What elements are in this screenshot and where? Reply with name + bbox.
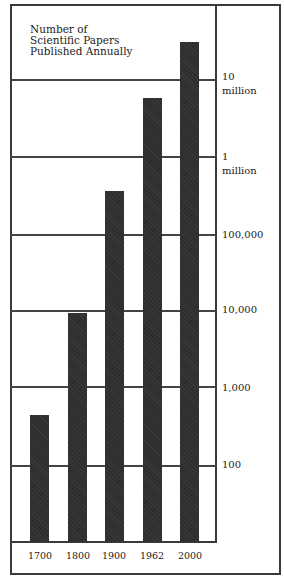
xtick-1700: 1700 [25,550,55,561]
bar-1800 [68,313,87,542]
xtick-2000: 2000 [175,550,205,561]
ytick-10-million-line2: million [222,84,257,98]
ytick-100000: 100,000 [222,228,263,242]
ytick-10-million: 10 million [222,70,257,98]
chart-title: Number of Scientific Papers Published An… [30,24,132,57]
bar-1962 [143,98,162,542]
xtick-1800: 1800 [63,550,93,561]
title-line-3: Published Annually [30,46,132,57]
ytick-100: 100 [222,458,241,472]
ytick-10000: 10,000 [222,303,257,317]
xtick-1900: 1900 [99,550,129,561]
ytick-1-million-line1: 1 [222,150,257,164]
xtick-1962: 1962 [137,550,167,561]
bar-2000 [180,42,199,542]
ytick-10-million-line1: 10 [222,70,257,84]
ytick-1-million: 1 million [222,150,257,178]
ytick-1000: 1,000 [222,381,251,395]
bar-1700 [30,415,49,542]
ytick-1-million-line2: million [222,164,257,178]
bar-1900 [105,191,124,542]
